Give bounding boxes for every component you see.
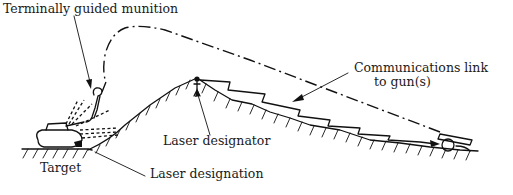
munition-label: Terminally guided munition	[3, 1, 178, 16]
designator-label-leader	[198, 95, 210, 135]
comms-label-leader	[300, 73, 348, 98]
comms-leader-arrowhead	[292, 94, 304, 102]
designation-label: Laser designation	[150, 166, 263, 181]
comms-label-line2: to gun(s)	[374, 74, 431, 89]
ground-left	[22, 149, 92, 150]
munition-leader-arrowhead	[86, 79, 92, 89]
gun-emplacement	[438, 134, 472, 151]
designator-label: Laser designator	[163, 133, 270, 148]
comms-link-arrowhead	[430, 140, 440, 147]
target-label: Target	[40, 160, 81, 175]
ground-hatch-left	[23, 149, 88, 158]
laser-guided-munition-diagram: Terminally guided munition Communication…	[0, 0, 513, 195]
designation-label-leader	[95, 152, 145, 176]
munition-shape	[86, 88, 102, 122]
comms-label-line1: Communications link	[354, 60, 488, 75]
munition-label-leader	[74, 16, 90, 82]
laser-reflections	[66, 100, 118, 138]
mountain-hatch-right	[202, 84, 470, 160]
diagram-svg: Terminally guided munition Communication…	[0, 0, 513, 195]
